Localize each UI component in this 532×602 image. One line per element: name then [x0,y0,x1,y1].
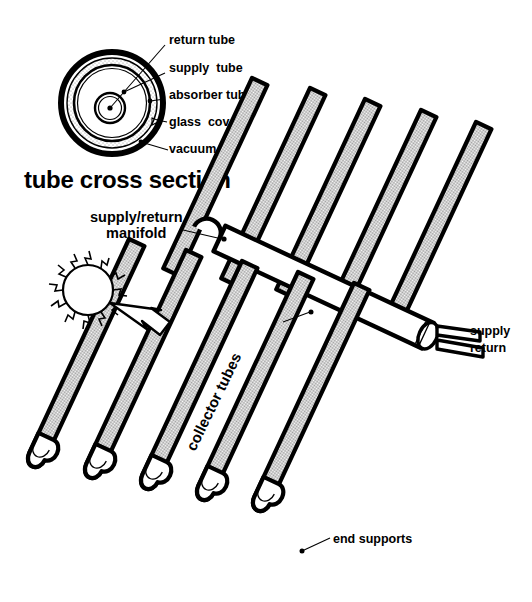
callout-manifold-line1: supply/return [90,209,183,225]
manifold-dot [221,236,226,241]
collector-tubes-dot [309,310,314,315]
callout-return-tube: return tube [169,33,235,47]
solar-collector-diagram: return tube supply tube absorber tube gl… [0,0,532,602]
callout-vacuum: vacuum [169,142,216,156]
callout-end-supports: end supports [333,532,412,546]
callout-manifold-line2: manifold [106,225,166,241]
callout-return-outlet: return [470,341,506,355]
sun-disc [63,265,113,315]
callout-supply-tube: supply tube [169,61,243,75]
callout-supply-outlet: supply [470,324,510,338]
